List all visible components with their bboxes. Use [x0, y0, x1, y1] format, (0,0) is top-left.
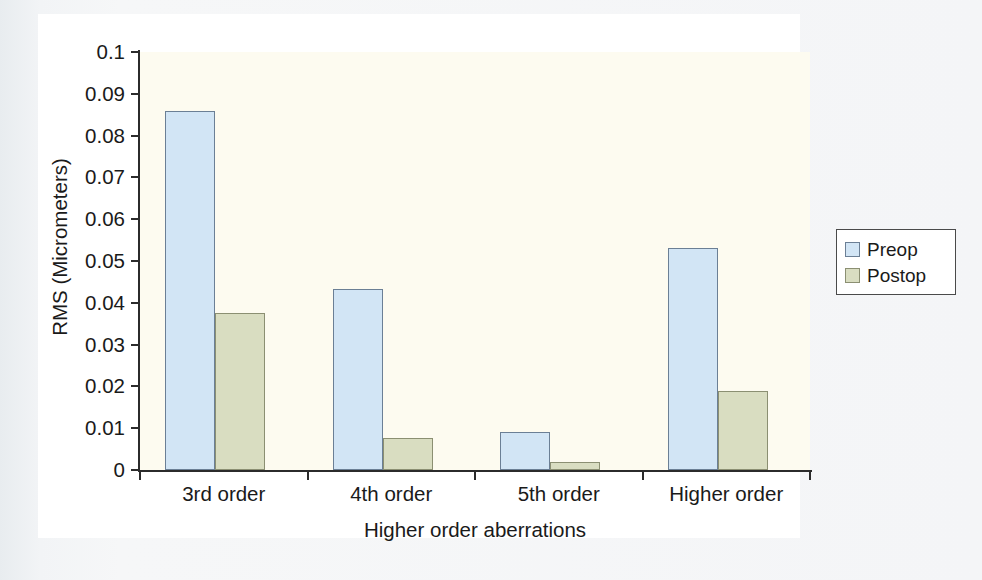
legend-swatch-postop-icon — [845, 268, 860, 283]
legend-swatch-preop-icon — [845, 242, 860, 257]
bar-preop-3rd-order — [165, 111, 215, 470]
x-axis-category-label: 4th order — [308, 482, 476, 506]
y-axis-tick — [131, 302, 139, 304]
y-axis-tick — [131, 135, 139, 137]
bar-postop-3rd-order — [215, 313, 265, 470]
y-axis-tick — [131, 51, 139, 53]
legend-label-preop: Preop — [867, 240, 918, 259]
x-axis-category-label: 5th order — [475, 482, 643, 506]
legend-item-postop[interactable]: Postop — [845, 262, 947, 288]
y-axis-tick — [131, 93, 139, 95]
x-axis-tick — [809, 471, 811, 480]
y-axis-tick — [131, 176, 139, 178]
y-axis-tick — [131, 218, 139, 220]
bar-postop-5th-order — [550, 462, 600, 470]
bar-preop-4th-order — [333, 289, 383, 470]
x-axis-tick — [474, 471, 476, 480]
bar-preop-5th-order — [500, 432, 550, 470]
x-axis-category-label: 3rd order — [140, 482, 308, 506]
x-axis-tick — [139, 471, 141, 480]
y-axis-tick — [131, 260, 139, 262]
legend: Preop Postop — [836, 229, 956, 295]
x-axis-title: Higher order aberrations — [140, 518, 810, 542]
y-axis-title: RMS (Micrometers) — [48, 97, 72, 397]
bar-chart: 00.010.020.030.040.050.060.070.080.090.1… — [0, 0, 982, 580]
y-axis-tick — [131, 344, 139, 346]
y-axis-tick-label: 0.1 — [55, 40, 125, 60]
y-axis-tick-label: 0 — [55, 458, 125, 478]
x-axis-tick — [307, 471, 309, 480]
x-axis-tick — [642, 471, 644, 480]
y-axis-tick — [131, 427, 139, 429]
bar-postop-higher-order — [718, 391, 768, 470]
x-axis-category-label: Higher order — [643, 482, 811, 506]
y-axis-tick-label: 0.01 — [55, 416, 125, 436]
bar-preop-higher-order — [668, 248, 718, 470]
legend-label-postop: Postop — [867, 266, 926, 285]
y-axis-tick — [131, 385, 139, 387]
y-axis-tick — [131, 469, 139, 471]
bar-postop-4th-order — [383, 438, 433, 470]
legend-item-preop[interactable]: Preop — [845, 236, 947, 262]
